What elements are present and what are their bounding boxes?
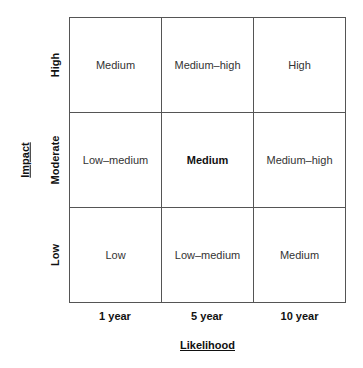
matrix-cell-emphasized: Medium xyxy=(162,113,254,208)
impact-axis-title: Impact xyxy=(10,112,40,207)
row-label-moderate: Moderate xyxy=(40,112,70,207)
matrix-cell: High xyxy=(254,18,345,113)
matrix-cell: Medium–high xyxy=(254,113,345,208)
matrix-cell: Low–medium xyxy=(162,208,254,302)
row-label-high: High xyxy=(40,17,70,112)
column-label-10-year: 10 year xyxy=(253,310,346,322)
matrix-cell: Medium xyxy=(70,18,162,113)
matrix-cell: Medium–high xyxy=(162,18,254,113)
column-label-1-year: 1 year xyxy=(69,310,161,322)
risk-matrix: Medium Medium–high High Low–medium Mediu… xyxy=(69,17,346,303)
matrix-cell: Low xyxy=(70,208,162,302)
likelihood-axis-title: Likelihood xyxy=(69,339,346,351)
column-label-5-year: 5 year xyxy=(161,310,253,322)
row-label-low: Low xyxy=(40,207,70,302)
matrix-cell: Low–medium xyxy=(70,113,162,208)
matrix-cell: Medium xyxy=(254,208,345,302)
